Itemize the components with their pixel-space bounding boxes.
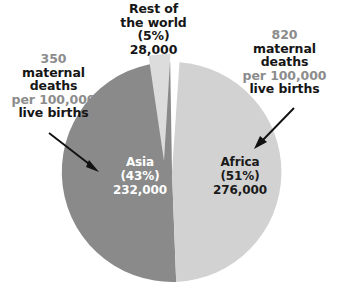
africa-name: Africa <box>196 155 284 169</box>
africa-rate-births: live births <box>228 82 341 96</box>
africa-rate-number: 820 <box>228 28 341 42</box>
slice-label-asia: Asia (43%) 232,000 <box>96 155 184 197</box>
africa-rate-maternal: maternal <box>228 42 341 56</box>
asia-rate-maternal: maternal <box>0 66 107 80</box>
asia-rate-per: per 100,000 <box>0 93 107 107</box>
asia-rate-number: 350 <box>0 52 107 66</box>
africa-percent: (51%) <box>196 169 284 183</box>
africa-value: 276,000 <box>196 183 284 197</box>
slice-label-africa: Africa (51%) 276,000 <box>196 155 284 197</box>
asia-rate-deaths: deaths <box>0 79 107 93</box>
pie-chart-figure: Rest of the world (5%) 28,000 350 matern… <box>0 0 341 290</box>
asia-name: Asia <box>96 155 184 169</box>
label-rest-of-the-world: Rest of the world (5%) 28,000 <box>96 2 211 56</box>
rest-label-line2: the world <box>96 16 211 30</box>
annotation-asia-rate: 350 maternal deaths per 100,000 live bir… <box>0 52 107 120</box>
rest-label-line1: Rest of <box>96 2 211 16</box>
asia-rate-births: live births <box>0 106 107 120</box>
rest-label-percent: (5%) <box>96 29 211 43</box>
rest-label-value: 28,000 <box>96 43 211 57</box>
africa-rate-deaths: deaths <box>228 55 341 69</box>
asia-percent: (43%) <box>96 169 184 183</box>
africa-rate-per: per 100,000 <box>228 69 341 83</box>
asia-value: 232,000 <box>96 183 184 197</box>
annotation-africa-rate: 820 maternal deaths per 100,000 live bir… <box>228 28 341 96</box>
